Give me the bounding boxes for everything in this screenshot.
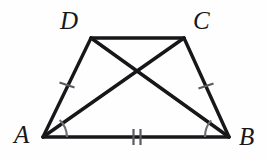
- vertex-label-a: A: [14, 122, 29, 147]
- vertex-label-c: C: [193, 8, 210, 33]
- geometry-figure: D C A B: [0, 0, 267, 159]
- vertex-label-b: B: [239, 124, 254, 149]
- geometry-canvas: [0, 0, 267, 159]
- vertex-label-d: D: [60, 8, 78, 33]
- angle-arc-B: [205, 120, 211, 137]
